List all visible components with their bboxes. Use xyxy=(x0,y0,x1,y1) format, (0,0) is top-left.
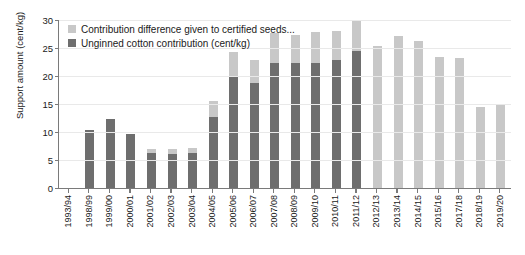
y-tick-label: 10 xyxy=(42,127,53,138)
x-tick-slot xyxy=(222,188,243,194)
x-axis-tick-label: 2003/04 xyxy=(187,195,197,228)
bar-segment-unginned-cotton[interactable] xyxy=(147,153,156,188)
x-label-slot: 2011/12 xyxy=(346,195,367,253)
bar-segment-unginned-cotton[interactable] xyxy=(106,119,115,188)
y-gridline xyxy=(59,20,511,21)
y-tick-label: 0 xyxy=(48,183,53,194)
bar-stack[interactable] xyxy=(229,52,238,188)
bar-stack[interactable] xyxy=(373,46,382,188)
x-tick-mark xyxy=(458,188,459,193)
y-gridline xyxy=(59,160,511,161)
x-tick-mark xyxy=(273,188,274,193)
x-tick-slot xyxy=(489,188,510,194)
x-label-slot: 2015/16 xyxy=(428,195,449,253)
y-tick-mark xyxy=(55,160,59,161)
bar-stack[interactable] xyxy=(455,58,464,188)
x-tick-mark xyxy=(438,188,439,193)
legend-item[interactable]: Unginned cotton contribution (cent/kg) xyxy=(68,36,295,50)
bar-segment-unginned-cotton[interactable] xyxy=(311,63,320,188)
x-axis-tick-label: 2004/05 xyxy=(207,195,217,228)
x-label-slot: 2010/11 xyxy=(325,195,346,253)
x-tick-slot xyxy=(263,188,284,194)
bar-segment-unginned-cotton[interactable] xyxy=(291,63,300,188)
bar-segment-certified-seed-difference[interactable] xyxy=(229,52,238,76)
legend-item[interactable]: Contribution difference given to certifi… xyxy=(68,22,295,36)
y-tick-label: 30 xyxy=(42,15,53,26)
bar-segment-certified-seed-difference[interactable] xyxy=(414,41,423,188)
bar-segment-certified-seed-difference[interactable] xyxy=(496,104,505,188)
x-tick-mark xyxy=(396,188,397,193)
x-tick-slot xyxy=(181,188,202,194)
bar-segment-unginned-cotton[interactable] xyxy=(209,117,218,188)
bar-segment-unginned-cotton[interactable] xyxy=(250,83,259,188)
bar-segment-certified-seed-difference[interactable] xyxy=(250,60,259,83)
y-gridline xyxy=(59,104,511,105)
bar-stack[interactable] xyxy=(209,101,218,188)
bar-segment-certified-seed-difference[interactable] xyxy=(394,36,403,188)
legend-label: Unginned cotton contribution (cent/kg) xyxy=(81,38,250,49)
x-tick-mark xyxy=(355,188,356,193)
x-axis-tick-label: 2007/08 xyxy=(269,195,279,228)
x-axis-tick-label: 2008/09 xyxy=(289,195,299,228)
x-tick-mark xyxy=(335,188,336,193)
x-label-slot: 2018/19 xyxy=(469,195,490,253)
x-label-slot: 2014/15 xyxy=(407,195,428,253)
x-label-slot: 2009/10 xyxy=(305,195,326,253)
bar-segment-unginned-cotton[interactable] xyxy=(188,153,197,188)
bar-stack[interactable] xyxy=(85,130,94,188)
x-label-slot: 2004/05 xyxy=(202,195,223,253)
x-label-slot: 2001/02 xyxy=(140,195,161,253)
y-tick-mark xyxy=(55,76,59,77)
x-label-slot: 2000/01 xyxy=(120,195,141,253)
y-tick-mark xyxy=(55,132,59,133)
bar-stack[interactable] xyxy=(106,119,115,188)
x-axis-tick-label: 2014/15 xyxy=(413,195,423,228)
bar-segment-unginned-cotton[interactable] xyxy=(270,63,279,188)
bar-stack[interactable] xyxy=(332,31,341,188)
x-axis-tick-label: 2011/12 xyxy=(351,195,361,227)
y-gridline xyxy=(59,76,511,77)
bar-segment-certified-seed-difference[interactable] xyxy=(455,58,464,188)
x-tick-mark xyxy=(253,188,254,193)
bar-segment-certified-seed-difference[interactable] xyxy=(352,20,361,51)
bar-segment-certified-seed-difference[interactable] xyxy=(373,46,382,188)
x-tick-slot xyxy=(243,188,264,194)
x-tick-slot xyxy=(387,188,408,194)
x-tick-slot xyxy=(284,188,305,194)
x-axis-labels: 1993/941998/991999/002000/012001/022002/… xyxy=(58,195,510,253)
legend-swatch-icon xyxy=(68,39,76,47)
y-tick-mark xyxy=(55,48,59,49)
bar-stack[interactable] xyxy=(394,36,403,188)
y-gridline xyxy=(59,132,511,133)
x-axis-tick-label: 2009/10 xyxy=(310,195,320,228)
x-axis-tick-label: 2018/19 xyxy=(474,195,484,228)
x-label-slot: 2002/03 xyxy=(161,195,182,253)
x-tick-slot xyxy=(58,188,79,194)
x-label-slot: 2005/06 xyxy=(222,195,243,253)
bar-stack[interactable] xyxy=(188,148,197,188)
bar-stack[interactable] xyxy=(168,149,177,188)
bar-segment-certified-seed-difference[interactable] xyxy=(476,107,485,188)
x-tick-mark xyxy=(232,188,233,193)
x-tick-mark xyxy=(68,188,69,193)
bar-stack[interactable] xyxy=(311,32,320,188)
bar-segment-unginned-cotton[interactable] xyxy=(168,154,177,188)
bar-stack[interactable] xyxy=(250,60,259,188)
bar-segment-certified-seed-difference[interactable] xyxy=(332,31,341,60)
y-tick-mark xyxy=(55,104,59,105)
bar-segment-unginned-cotton[interactable] xyxy=(352,51,361,188)
x-tick-slot xyxy=(202,188,223,194)
legend-swatch-icon xyxy=(68,25,76,33)
x-tick-slot xyxy=(79,188,100,194)
bar-segment-unginned-cotton[interactable] xyxy=(332,60,341,188)
bar-segment-unginned-cotton[interactable] xyxy=(85,130,94,188)
bar-stack[interactable] xyxy=(476,107,485,188)
x-tick-slot xyxy=(120,188,141,194)
bar-stack[interactable] xyxy=(147,149,156,188)
bar-stack[interactable] xyxy=(496,104,505,188)
bar-stack[interactable] xyxy=(270,33,279,188)
bar-stack[interactable] xyxy=(414,41,423,188)
bar-stack[interactable] xyxy=(291,35,300,188)
chart-legend: Contribution difference given to certifi… xyxy=(68,22,295,50)
x-tick-mark xyxy=(129,188,130,193)
